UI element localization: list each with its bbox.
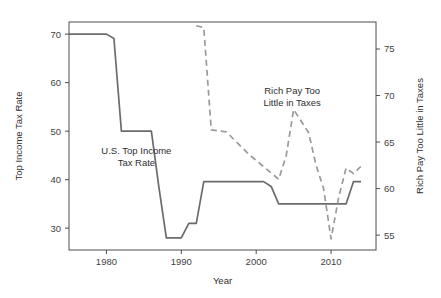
y-right-tick-label: 65 [384,137,395,148]
y-left-tick-label: 60 [50,77,61,88]
x-axis-title: Year [213,275,232,286]
y-left-tick-label: 50 [50,126,61,137]
y-axis-right-title: Rich Pay Too Little in Taxes [414,78,425,194]
rich-pay-too-little-label: Little in Taxes [263,97,321,108]
y-right-tick-label: 70 [384,90,395,101]
rich-pay-too-little-label: Rich Pay Too [264,85,320,96]
y-left-tick-label: 30 [50,223,61,234]
y-axis-left-ticks: 3040506070 [50,29,69,234]
x-tick-label: 1980 [96,256,117,267]
y-left-tick-label: 70 [50,29,61,40]
us-top-income-tax-rate-label: U.S. Top Income [101,145,171,156]
x-tick-label: 2010 [321,256,342,267]
x-axis-ticks: 1980199020002010 [96,250,342,267]
y-right-tick-label: 55 [384,230,395,241]
chart-annotations: U.S. Top IncomeTax RateRich Pay TooLittl… [101,85,321,169]
chart-svg: 1980199020002010 3040506070 5560657075 U… [0,0,441,298]
series-line-rich-pay-too-little [196,26,361,239]
y-left-tick-label: 40 [50,174,61,185]
y-axis-left-title: Top Income Tax Rate [13,91,24,180]
y-right-tick-label: 75 [384,43,395,54]
x-tick-label: 1990 [171,256,192,267]
data-series-layer [69,26,361,239]
x-tick-label: 2000 [246,256,267,267]
y-axis-right-ticks: 5560657075 [376,43,395,240]
us-top-income-tax-rate-label: Tax Rate [118,157,156,168]
chart-container: 1980199020002010 3040506070 5560657075 U… [0,0,441,298]
series-line-top-income-tax-rate [69,34,361,238]
y-right-tick-label: 60 [384,183,395,194]
